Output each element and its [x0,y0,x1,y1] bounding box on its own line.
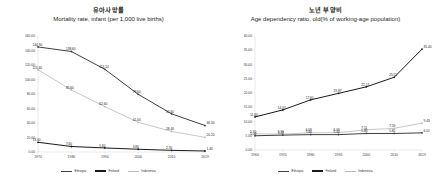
x-axis-tick-label: 1960 [246,153,264,157]
data-point-label: 79.60 [133,90,141,94]
chart-panel-infant-mortality: 유아사망률 Mortality rate, infant (per 1,000 … [0,0,217,179]
data-point-label: 9.43 [424,119,430,123]
x-axis-tick-label: 1970 [274,153,292,157]
data-point-label: 5.00 [250,132,256,136]
data-point-label: 52.60 [166,110,174,114]
y-axis-tick-label: 140.00 [19,49,35,53]
y-axis-tick-label: 30.00 [236,63,252,67]
legend-swatch-indonesia [345,171,356,172]
series-line-ethiopia [38,47,205,126]
legend-item-ethiopia[interactable]: Ethiopia [278,169,303,173]
legend-label-finland: Finland [325,169,336,173]
left-plot-area: 160.00140.00120.00100.0080.0060.0040.002… [0,0,217,179]
y-axis-tick-label: 160.00 [19,34,35,38]
data-point-label: 114.10 [99,65,109,69]
data-point-label: 11.60 [250,113,258,117]
data-point-label: 144.90 [33,43,43,47]
x-axis-tick-label: 2019 [196,155,214,159]
data-point-label: 5.80 [389,129,395,133]
y-axis-tick-label: 20.00 [236,91,252,95]
legend-swatch-indonesia [128,171,139,172]
legend-label-finland: Finland [108,169,119,173]
legend-label-ethiopia: Ethiopia [74,169,86,173]
data-point-label: 36.50 [207,121,215,125]
y-axis-tick-label: 15.00 [236,105,252,109]
data-point-label: 3.80 [133,145,139,149]
right-legend: Ethiopia Finland Indonesia [217,169,434,173]
x-axis-tick-label: 2010 [385,153,403,157]
legend-item-indonesia[interactable]: Indonesia [128,169,155,173]
legend-item-finland[interactable]: Finland [312,169,336,173]
data-point-label: 14.07 [278,106,286,110]
y-axis-tick-label: 0.00 [236,148,252,152]
legend-swatch-finland [312,170,323,171]
data-point-label: 62.60 [99,102,107,106]
data-point-label: 5.40 [334,130,340,134]
y-axis-tick-label: 60.00 [19,107,35,111]
x-axis-tick-label: 1990 [330,153,348,157]
x-axis-tick-label: 2000 [357,153,375,157]
legend-swatch-ethiopia [61,171,72,172]
x-axis-tick-label: 1990 [96,155,114,159]
left-legend: Ethiopia Finland Indonesia [0,169,217,173]
x-axis-tick-label: 1970 [29,155,47,159]
y-axis-tick-label: 40.00 [19,121,35,125]
data-point-label: 28.40 [166,127,174,131]
data-point-label: 17.60 [306,96,314,100]
data-point-label: 13.40 [33,138,41,142]
data-point-label: 85.60 [66,86,74,90]
y-axis-tick-label: 25.00 [236,77,252,81]
data-point-label: 7.60 [66,142,72,146]
chart-axes [38,36,205,152]
legend-swatch-finland [95,170,106,171]
chart-panel-age-dependency: 노년 부양비 Age dependency ratio, old(% of wo… [217,0,434,179]
data-point-label: 20.20 [207,133,215,137]
y-axis-tick-label: 35.00 [236,48,252,52]
data-point-label: 113.40 [33,66,43,70]
data-point-label: 35.40 [424,45,432,49]
y-axis-tick-label: 100.00 [19,78,35,82]
legend-swatch-ethiopia [278,171,289,172]
right-plot-area: 40.0035.0030.0025.0020.0015.0010.005.000… [217,0,434,179]
series-line-finland [38,142,205,151]
series-line-indonesia [38,70,205,138]
data-point-label: 25.51 [389,73,397,77]
data-point-label: 22.17 [361,83,369,87]
y-axis-tick-label: 80.00 [19,92,35,96]
legend-item-finland[interactable]: Finland [95,169,119,173]
y-axis-tick-label: 10.00 [236,120,252,124]
legend-label-ethiopia: Ethiopia [291,169,303,173]
legend-item-indonesia[interactable]: Indonesia [345,169,372,173]
data-point-label: 5.40 [306,130,312,134]
data-point-label: 5.60 [99,144,105,148]
legend-item-ethiopia[interactable]: Ethiopia [61,169,86,173]
data-point-label: 6.01 [424,129,430,133]
data-point-label: 5.22 [278,131,284,135]
legend-label-indonesia: Indonesia [358,169,372,173]
y-axis-tick-label: 0.00 [19,150,35,154]
x-axis-tick-label: 2010 [163,155,181,159]
legend-label-indonesia: Indonesia [141,169,155,173]
x-axis-tick-label: 1980 [302,153,320,157]
data-point-label: 7.59 [389,124,395,128]
dual-chart-container: 유아사망률 Mortality rate, infant (per 1,000 … [0,0,434,179]
x-axis-tick-label: 2000 [129,155,147,159]
data-point-label: 1.40 [207,147,213,151]
x-axis-tick-label: 1980 [62,155,80,159]
data-point-label: 2.30 [166,146,172,150]
x-axis-tick-label: 2019 [413,153,431,157]
data-point-label: 138.60 [66,47,76,51]
data-point-label: 5.80 [361,129,367,133]
data-point-label: 19.87 [334,89,342,93]
data-point-label: 41.00 [133,118,141,122]
y-axis-tick-label: 40.00 [236,34,252,38]
